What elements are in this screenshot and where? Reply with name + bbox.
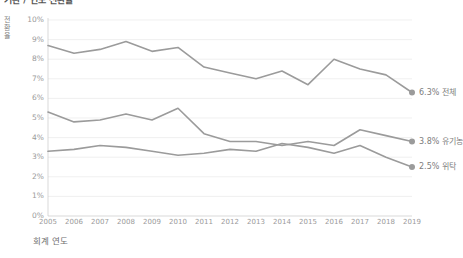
series-line-organic	[48, 108, 412, 145]
y-tick-label: 8%	[18, 55, 44, 63]
y-tick-label: 2%	[18, 173, 44, 181]
end-marker-total	[409, 90, 415, 96]
series-line-total	[48, 42, 412, 93]
x-tick-label: 2013	[243, 218, 269, 226]
y-tick-label: 7%	[18, 75, 44, 83]
x-tick-label: 2012	[217, 218, 243, 226]
end-marker-contract	[409, 164, 415, 170]
y-tick-label: 6%	[18, 94, 44, 102]
x-tick-label: 2010	[165, 218, 191, 226]
x-tick-label: 2015	[295, 218, 321, 226]
y-tick-label: 5%	[18, 114, 44, 122]
x-tick-label: 2018	[373, 218, 399, 226]
x-tick-label: 2017	[347, 218, 373, 226]
series-label-contract: 2.5% 위탁	[419, 162, 456, 171]
x-tick-label: 2009	[139, 218, 165, 226]
y-tick-label: 4%	[18, 134, 44, 142]
series-label-total: 6.3% 전체	[419, 88, 456, 97]
x-tick-label: 2011	[191, 218, 217, 226]
x-tick-label: 2005	[35, 218, 61, 226]
y-tick-label: 9%	[18, 36, 44, 44]
series-line-contract	[48, 143, 412, 167]
x-tick-label: 2007	[87, 218, 113, 226]
y-tick-label: 10%	[18, 16, 44, 24]
series-group	[48, 42, 415, 170]
x-tick-label: 2016	[321, 218, 347, 226]
y-tick-label: 1%	[18, 192, 44, 200]
end-marker-organic	[409, 139, 415, 145]
series-label-organic: 3.8% 유기농	[419, 137, 463, 146]
y-tick-label: 3%	[18, 153, 44, 161]
x-tick-label: 2019	[399, 218, 425, 226]
x-tick-label: 2014	[269, 218, 295, 226]
x-tick-label: 2008	[113, 218, 139, 226]
x-axis-title: 회계 연도	[33, 236, 68, 246]
x-tick-label: 2006	[61, 218, 87, 226]
gridlines	[48, 20, 412, 196]
